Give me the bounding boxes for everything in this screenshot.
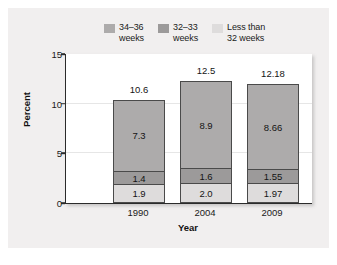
bar-segment[interactable]: 2.0: [180, 183, 232, 203]
y-axis-tick-label: 10: [40, 98, 62, 109]
legend-item-less-than-32-weeks: Less than 32 weeks: [212, 22, 265, 52]
bar-segment-value: 1.4: [132, 173, 145, 184]
y-axis-tick-label: 5: [40, 148, 62, 159]
bar-segment[interactable]: 8.9: [180, 81, 232, 169]
plot-area: 7.31.41.910.68.91.62.012.58.661.551.9712…: [66, 54, 312, 203]
bar-segment[interactable]: 8.66: [247, 84, 299, 170]
legend-swatch-34-36-weeks: [104, 24, 115, 33]
bar-segment[interactable]: 1.97: [247, 183, 299, 203]
x-axis-tick-label: 2009: [242, 207, 302, 218]
bar-2009[interactable]: 8.661.551.9712.18: [247, 85, 299, 203]
legend-label-34-36-weeks: 34–36 weeks: [119, 22, 144, 44]
legend-swatch-32-33-weeks: [158, 24, 169, 33]
bar-2004[interactable]: 8.91.62.012.5: [180, 82, 232, 203]
bar-segment-value: 8.66: [264, 122, 283, 133]
bar-segment-value: 1.6: [199, 171, 212, 182]
bar-segment-value: 2.0: [199, 188, 212, 199]
x-axis-tick-label: 2004: [175, 207, 235, 218]
bar-total-label: 12.18: [261, 68, 285, 79]
legend-item-34-36-weeks: 34–36 weeks: [104, 22, 144, 52]
y-axis-tick-label: 0: [40, 198, 62, 209]
y-axis-tick-labels: 051015: [36, 54, 62, 203]
bar-segment[interactable]: 1.6: [180, 168, 232, 184]
bar-segment-value: 1.55: [264, 171, 283, 182]
bar-segment[interactable]: 1.9: [113, 184, 165, 203]
plot-frame: 7.31.41.910.68.91.62.012.58.661.551.9712…: [65, 54, 312, 204]
legend-label-32-33-weeks: 32–33 weeks: [173, 22, 198, 44]
bar-segment[interactable]: 1.55: [247, 169, 299, 184]
x-axis-tick-label: 1990: [108, 207, 168, 218]
chart-figure: 34–36 weeks 32–33 weeks Less than 32 wee…: [8, 8, 329, 248]
y-axis-tick-label: 15: [40, 49, 62, 60]
bar-total-label: 12.5: [197, 65, 216, 76]
bar-1990[interactable]: 7.31.41.910.6: [113, 101, 165, 203]
bar-segment[interactable]: 7.3: [113, 100, 165, 173]
bar-segment-value: 1.9: [132, 188, 145, 199]
bar-segment-value: 8.9: [199, 120, 212, 131]
x-axis-title: Year: [65, 222, 311, 233]
bar-segment-value: 1.97: [264, 188, 283, 199]
bar-segment-value: 7.3: [132, 130, 145, 141]
legend-item-32-33-weeks: 32–33 weeks: [158, 22, 198, 52]
legend-label-less-than-32-weeks: Less than 32 weeks: [227, 22, 265, 44]
y-axis-title: Percent: [21, 80, 32, 140]
chart-legend: 34–36 weeks 32–33 weeks Less than 32 wee…: [104, 22, 326, 52]
x-axis-tick-labels: 199020042009: [65, 207, 311, 221]
bar-segment[interactable]: 1.4: [113, 171, 165, 185]
legend-swatch-less-than-32-weeks: [212, 24, 223, 33]
bar-total-label: 10.6: [130, 84, 149, 95]
